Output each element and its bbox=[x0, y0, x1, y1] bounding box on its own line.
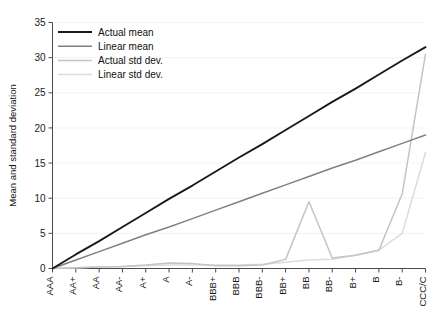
x-tick-label-bbb-: BBB- bbox=[253, 277, 264, 299]
y-tick-label-25: 25 bbox=[34, 87, 46, 98]
x-tick-label-a-: A+ bbox=[137, 276, 148, 288]
x-tick-label-aa-: AA- bbox=[113, 277, 124, 293]
x-tick-label-ccc-c: CCC/C bbox=[417, 276, 428, 306]
chart-canvas: 05101520253035AAAAA+AAAA-A+AA-BBB+BBBBBB… bbox=[0, 0, 444, 320]
legend-label-0: Actual mean bbox=[98, 27, 154, 38]
legend-label-3: Linear std dev. bbox=[98, 69, 163, 80]
x-tick-label-a: A bbox=[160, 276, 171, 283]
y-tick-label-30: 30 bbox=[34, 52, 46, 63]
legend-label-2: Actual std dev. bbox=[98, 55, 163, 66]
x-tick-label-aa: AA bbox=[90, 276, 101, 289]
y-tick-label-15: 15 bbox=[34, 158, 46, 169]
y-tick-label-35: 35 bbox=[34, 17, 46, 28]
x-tick-label-bbb-: BBB+ bbox=[207, 276, 218, 301]
x-tick-label-bb-: BB- bbox=[323, 277, 334, 293]
x-tick-label-bb: BB bbox=[300, 277, 311, 290]
x-tick-label-aaa: AAA bbox=[44, 276, 55, 296]
y-tick-label-20: 20 bbox=[34, 123, 46, 134]
y-tick-label-10: 10 bbox=[34, 193, 46, 204]
y-tick-label-5: 5 bbox=[40, 228, 46, 239]
chart-figure: 05101520253035AAAAA+AAAA-A+AA-BBB+BBBBBB… bbox=[0, 0, 444, 320]
x-tick-label-b-: B- bbox=[393, 277, 404, 287]
legend-label-1: Linear mean bbox=[98, 41, 154, 52]
y-axis-title: Mean and standard deviation bbox=[7, 84, 18, 207]
y-tick-label-0: 0 bbox=[40, 263, 46, 274]
x-tick-label-b: B bbox=[370, 277, 381, 283]
x-tick-label-bbb: BBB bbox=[230, 277, 241, 296]
x-tick-label-bb-: BB+ bbox=[277, 276, 288, 295]
x-tick-label-aa-: AA+ bbox=[67, 276, 78, 295]
x-tick-label-a-: A- bbox=[183, 277, 194, 287]
x-tick-label-b-: B+ bbox=[347, 276, 358, 288]
